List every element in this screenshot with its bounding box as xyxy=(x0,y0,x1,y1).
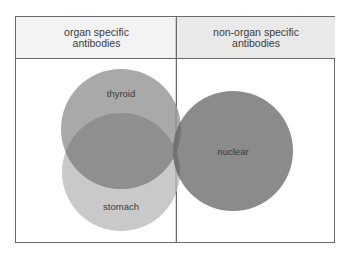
nuclear-label: nuclear xyxy=(217,146,248,157)
venn-diagram xyxy=(0,0,349,256)
thyroid-label: thyroid xyxy=(107,88,136,99)
stomach-label: stomach xyxy=(103,201,139,212)
